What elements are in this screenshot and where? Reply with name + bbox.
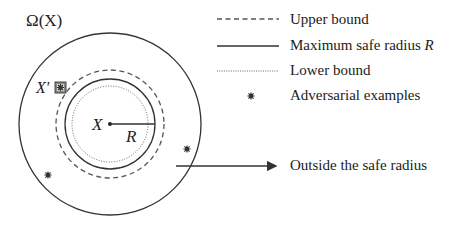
adversarial-point-label: X′ — [36, 80, 49, 96]
outside-safe-radius-label: Outside the safe radius — [290, 158, 427, 173]
legend-safe-radius-symbol: R — [425, 37, 434, 53]
center-label: X — [92, 116, 102, 133]
adversarial-box — [55, 82, 66, 93]
diagram-canvas — [0, 0, 466, 226]
region-label: Ω(X) — [26, 12, 62, 29]
adversarial-example-marker — [44, 171, 51, 178]
legend-marker-sample — [247, 92, 254, 99]
legend-adversarial: Adversarial examples — [290, 88, 420, 103]
adversarial-example-marker — [183, 145, 190, 152]
legend-upper-bound: Upper bound — [290, 12, 369, 27]
radius-label: R — [126, 128, 136, 145]
legend-lower-bound: Lower bound — [290, 63, 370, 78]
legend-safe-radius-text: Maximum safe radius — [290, 37, 425, 53]
legend-safe-radius: Maximum safe radius R — [290, 38, 434, 53]
